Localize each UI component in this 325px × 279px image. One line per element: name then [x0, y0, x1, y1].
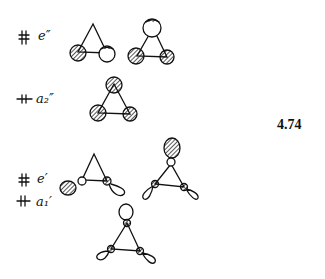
orbital-a2-double-prime — [90, 77, 137, 121]
figure-number: 4.74 — [277, 117, 302, 133]
orbital-e-double-prime-2 — [128, 19, 174, 64]
electron-pair-icon — [19, 174, 29, 186]
orbital-e-prime-1 — [60, 154, 125, 196]
symmetry-label-e-double-prime: e″ — [38, 28, 51, 43]
symmetry-label-a2-double-prime: a₂″ — [36, 91, 54, 106]
electron-pair-icon — [17, 95, 32, 103]
orbital-a1-prime — [97, 204, 156, 263]
electron-pair-icon — [19, 31, 29, 44]
electron-pair-icon — [17, 196, 30, 206]
orbital-e-prime-2 — [143, 138, 198, 199]
orbital-e-double-prime-1 — [70, 24, 115, 62]
symmetry-label-a1-prime: a₁′ — [36, 194, 52, 209]
symmetry-label-e-prime: e′ — [37, 171, 48, 186]
